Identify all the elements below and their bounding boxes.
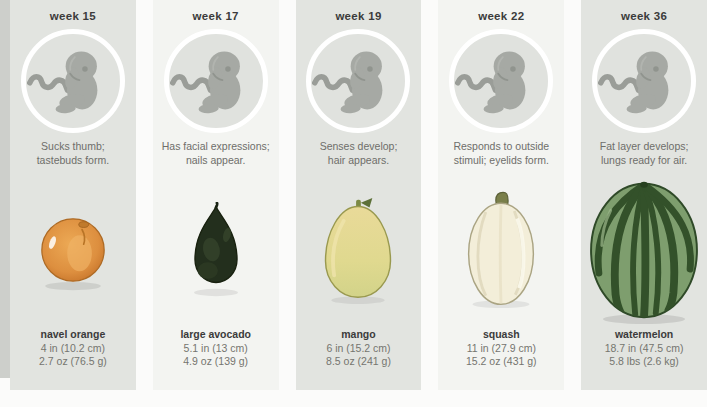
fruit-length: 6 in (15.2 cm) [326,342,391,356]
development-description: Responds to outside stimuli; eyelids for… [453,140,549,174]
fruit-label-block: watermelon 18.7 in (47.5 cm) 5.8 lbs (2.… [605,328,684,369]
avocado-icon [184,202,248,298]
fruit-illustration-area [32,174,114,326]
week-label: week 36 [621,10,667,22]
fruit-weight: 2.7 oz (76.5 g) [39,355,107,369]
fruit-length: 4 in (10.2 cm) [39,342,107,356]
fetus-icon [598,35,690,127]
fruit-name: navel orange [39,328,107,342]
fruit-name: watermelon [605,328,684,342]
fruit-name: squash [466,328,537,342]
fruit-length: 5.1 in (13 cm) [180,342,251,356]
fetus-circle [592,29,696,133]
cropped-neighbor-card-edge [0,0,10,378]
fruit-illustration-area [585,174,703,326]
development-description: Sucks thumb; tastebuds form. [37,140,109,174]
week-card: week 17 Has facial expressions; nails ap… [153,0,279,390]
week-label: week 22 [478,10,524,22]
fetus-circle [164,29,268,133]
fruit-illustration-area [315,174,401,326]
fruit-name: mango [326,328,391,342]
fetus-icon [455,35,547,127]
fruit-weight: 8.5 oz (241 g) [326,355,391,369]
fruit-weight: 15.2 oz (431 g) [466,355,537,369]
week-card: week 19 Senses develop; hair appears. [296,0,422,390]
fruit-label-block: squash 11 in (27.9 cm) 15.2 oz (431 g) [466,328,537,369]
fetus-circle [306,29,410,133]
fruit-length: 11 in (27.9 cm) [466,342,537,356]
fetus-icon [312,35,404,127]
week-label: week 17 [193,10,239,22]
squash-icon [458,190,544,310]
fetal-development-infographic: week 15 Sucks thumb; tastebuds form. [0,0,707,407]
week-cards-row: week 15 Sucks thumb; tastebuds form. [10,0,707,390]
navel-orange-icon [32,207,114,293]
fruit-length: 18.7 in (47.5 cm) [605,342,684,356]
week-card: week 15 Sucks thumb; tastebuds form. [10,0,136,390]
fetus-circle [21,29,125,133]
week-card: week 36 Fat layer develops; lungs ready … [581,0,707,390]
fruit-illustration-area [184,174,248,326]
watermelon-icon [585,175,703,325]
fruit-name: large avocado [180,328,251,342]
fruit-label-block: navel orange 4 in (10.2 cm) 2.7 oz (76.5… [39,328,107,369]
mango-icon [315,194,401,306]
development-description: Senses develop; hair appears. [320,140,398,174]
fruit-weight: 5.8 lbs (2.6 kg) [605,355,684,369]
development-description: Has facial expressions; nails appear. [162,140,270,174]
fruit-label-block: mango 6 in (15.2 cm) 8.5 oz (241 g) [326,328,391,369]
fetus-icon [27,35,119,127]
week-label: week 19 [335,10,381,22]
week-card: week 22 Responds to outside stimuli; eye… [438,0,564,390]
fruit-label-block: large avocado 5.1 in (13 cm) 4.9 oz (139… [180,328,251,369]
fruit-illustration-area [458,174,544,326]
fetus-icon [170,35,262,127]
development-description: Fat layer develops; lungs ready for air. [600,140,689,174]
fruit-weight: 4.9 oz (139 g) [180,355,251,369]
week-label: week 15 [50,10,96,22]
fetus-circle [449,29,553,133]
